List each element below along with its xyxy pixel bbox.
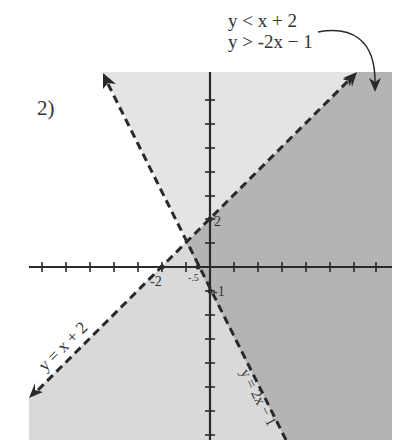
point-0-2 xyxy=(208,217,213,222)
inequality-2: y > -2x − 1 xyxy=(228,32,313,51)
point-0-neg1 xyxy=(208,289,213,294)
point-neghalf-0 xyxy=(196,265,201,270)
graph: 2 -2 -.5 -1 y = x + 2 y = 2x − 1 xyxy=(0,0,407,440)
problem-number: 2) xyxy=(37,96,55,121)
label-y-intercept-2: 2 xyxy=(214,214,221,229)
point-neg2-0 xyxy=(160,265,165,270)
label-x-intercept-neg-half: -.5 xyxy=(188,272,199,283)
inequality-1: y < x + 2 xyxy=(228,11,297,30)
label-y-intercept-neg1: -1 xyxy=(213,284,225,299)
label-x-intercept-neg2: -2 xyxy=(150,274,162,289)
